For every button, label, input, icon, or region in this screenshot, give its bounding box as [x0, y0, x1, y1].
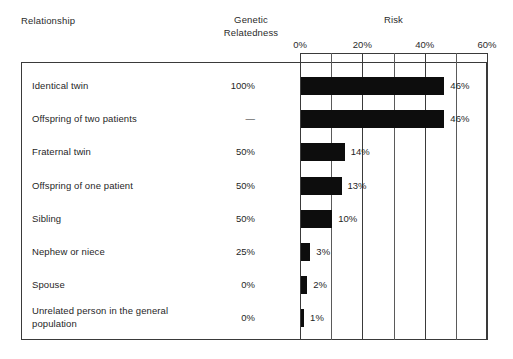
table-row[interactable]: Identical twin100%46% — [0, 70, 513, 102]
risk-bar — [301, 276, 307, 294]
risk-bar — [301, 210, 332, 228]
table-row[interactable]: Spouse0%2% — [0, 269, 513, 301]
table-row[interactable]: Fraternal twin50%14% — [0, 136, 513, 168]
risk-bar-value-label: 2% — [313, 279, 327, 290]
row-value-genetic-relatedness: 0% — [155, 312, 255, 323]
table-row[interactable]: Offspring of two patients—46% — [0, 103, 513, 135]
risk-bar-value-label: 13% — [348, 180, 367, 191]
risk-bar — [301, 309, 304, 327]
row-value-genetic-relatedness: 100% — [155, 80, 255, 91]
row-value-genetic-relatedness: 50% — [155, 213, 255, 224]
risk-bar-value-label: 1% — [310, 312, 324, 323]
risk-bar — [301, 110, 444, 128]
row-value-genetic-relatedness: 50% — [155, 180, 255, 191]
axis-tick-label: 0% — [283, 39, 317, 50]
risk-bar-value-label: 14% — [351, 146, 370, 157]
table-row[interactable]: Nephew or niece25%3% — [0, 236, 513, 268]
axis-tick-label: 20% — [345, 39, 379, 50]
table-row[interactable]: Unrelated person in the general populati… — [0, 302, 513, 334]
table-row[interactable]: Offspring of one patient50%13% — [0, 170, 513, 202]
table-row[interactable]: Sibling50%10% — [0, 203, 513, 235]
risk-table-chart: Relationship Genetic Relatedness Risk 0%… — [0, 0, 513, 359]
risk-bar-value-label: 3% — [316, 246, 330, 257]
row-value-genetic-relatedness: 50% — [155, 146, 255, 157]
risk-bar — [301, 143, 345, 161]
axis-tick-label: 40% — [408, 39, 442, 50]
risk-bar — [301, 243, 310, 261]
risk-bar-value-label: 46% — [450, 80, 469, 91]
risk-bar-value-label: 10% — [338, 213, 357, 224]
risk-bar-value-label: 46% — [450, 113, 469, 124]
row-value-genetic-relatedness: — — [155, 113, 255, 124]
risk-bar — [301, 177, 342, 195]
row-value-genetic-relatedness: 25% — [155, 246, 255, 257]
risk-bar — [301, 77, 444, 95]
row-value-genetic-relatedness: 0% — [155, 279, 255, 290]
axis-tick-label: 60% — [470, 39, 504, 50]
